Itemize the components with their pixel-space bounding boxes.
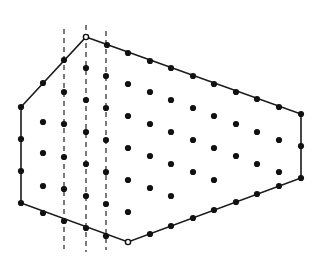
interior-lattice-point (61, 154, 67, 160)
boundary-lattice-point (18, 136, 24, 142)
boundary-lattice-point (190, 215, 196, 221)
boundary-lattice-point (254, 191, 260, 197)
interior-lattice-points-group (40, 65, 282, 215)
boundary-lattice-point (104, 42, 110, 48)
interior-lattice-point (125, 113, 131, 119)
boundary-lattice-point (168, 223, 174, 229)
interior-lattice-point (103, 105, 109, 111)
boundary-lattice-point (125, 50, 131, 56)
interior-lattice-point (254, 161, 260, 167)
boundary-lattice-points-group (18, 42, 304, 239)
interior-lattice-point (83, 161, 89, 167)
interior-lattice-point (83, 65, 89, 71)
lattice-polygon-canvas (0, 0, 316, 265)
interior-lattice-point (211, 145, 217, 151)
interior-lattice-point (103, 201, 109, 207)
boundary-lattice-point (18, 168, 24, 174)
boundary-lattice-point (147, 58, 153, 64)
interior-lattice-point (147, 185, 153, 191)
interior-lattice-point (61, 121, 67, 127)
interior-lattice-point (276, 137, 282, 143)
interior-lattice-point (103, 73, 109, 79)
boundary-lattice-point (190, 73, 196, 79)
polygon-vertex-right-bottom (298, 175, 304, 181)
polygon-vertex-left-top (18, 104, 24, 110)
cut-lines-group (64, 25, 106, 252)
interior-lattice-point (233, 121, 239, 127)
interior-lattice-point (190, 137, 196, 143)
boundary-lattice-point (103, 233, 109, 239)
interior-lattice-point (103, 169, 109, 175)
boundary-lattice-point (254, 96, 260, 102)
interior-lattice-point (40, 183, 46, 189)
lattice-polygon-figure (0, 0, 316, 265)
interior-lattice-point (168, 97, 174, 103)
boundary-lattice-point (276, 104, 282, 110)
interior-lattice-point (168, 161, 174, 167)
interior-lattice-point (211, 113, 217, 119)
boundary-lattice-point (211, 81, 217, 87)
interior-lattice-point (125, 209, 131, 215)
polygon-vertex-right-top (298, 111, 304, 117)
boundary-lattice-point (233, 199, 239, 205)
polygon-vertex-bottom (125, 239, 130, 244)
boundary-lattice-point (276, 183, 282, 189)
interior-lattice-point (40, 150, 46, 156)
polygon-vertex-apex-top (83, 34, 88, 39)
polygon-vertex-points-group (18, 34, 304, 244)
interior-lattice-point (83, 193, 89, 199)
boundary-lattice-point (147, 231, 153, 237)
polygon-vertex-left-bottom (18, 200, 24, 206)
boundary-lattice-point (40, 210, 46, 216)
interior-lattice-point (125, 145, 131, 151)
interior-lattice-point (211, 177, 217, 183)
interior-lattice-point (276, 169, 282, 175)
boundary-lattice-point (61, 218, 67, 224)
interior-lattice-point (168, 193, 174, 199)
boundary-lattice-point (211, 207, 217, 213)
interior-lattice-point (147, 89, 153, 95)
interior-lattice-point (83, 97, 89, 103)
interior-lattice-point (147, 121, 153, 127)
boundary-lattice-point (233, 89, 239, 95)
interior-lattice-point (125, 81, 131, 87)
boundary-lattice-point (40, 80, 46, 86)
interior-lattice-point (61, 186, 67, 192)
interior-lattice-point (190, 105, 196, 111)
interior-lattice-point (233, 153, 239, 159)
interior-lattice-point (83, 129, 89, 135)
interior-lattice-point (190, 169, 196, 175)
boundary-lattice-point (61, 57, 67, 63)
interior-lattice-point (61, 89, 67, 95)
interior-lattice-point (40, 119, 46, 125)
polygon-outline (21, 37, 301, 242)
interior-lattice-point (168, 129, 174, 135)
boundary-lattice-point (168, 65, 174, 71)
boundary-lattice-point (298, 143, 304, 149)
interior-lattice-point (147, 153, 153, 159)
interior-lattice-point (254, 129, 260, 135)
interior-lattice-point (103, 137, 109, 143)
interior-lattice-point (125, 177, 131, 183)
boundary-lattice-point (83, 225, 89, 231)
